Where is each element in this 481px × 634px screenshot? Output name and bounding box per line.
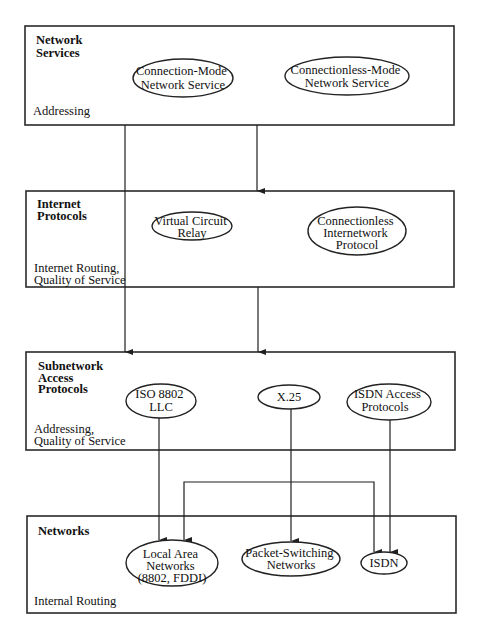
node-isdn: ISDN <box>361 552 407 574</box>
layer-network-services: Network Services Addressing Connection-M… <box>33 33 409 118</box>
protocol-layer-diagram: Network Services Addressing Connection-M… <box>0 0 481 634</box>
node-iso-8802-llc: ISO 8802 LLC <box>126 384 196 418</box>
layer-title: Networks <box>38 524 90 538</box>
node-connectionless-mode-network-service: Connectionless-Mode Network Service <box>285 57 409 95</box>
layer-note: Addressing <box>33 104 91 118</box>
layer-networks: Networks Internal Routing Local Area Net… <box>34 524 407 608</box>
node-packet-switching-networks: Packet-Switching Networks <box>242 542 340 576</box>
svg-text:Connectionless-Mode Ne: Connectionless-Mode Network Service <box>291 63 404 90</box>
connector-isdn-lan-bracket <box>184 482 374 552</box>
node-connectionless-internetwork-protocol: Connectionless Internetwork Protocol <box>308 207 406 255</box>
svg-text:Connection-Mode Networ: Connection-Mode Network Service <box>136 64 230 92</box>
layer-internet-protocols: Internet Protocols Internet Routing, Qua… <box>34 197 406 287</box>
node-isdn-access-protocols: ISDN Access Protocols <box>347 384 431 420</box>
node-x25: X.25 <box>258 385 320 409</box>
layer-title: Internet Protocols <box>37 197 87 223</box>
layer-note: Internet Routing, Quality of Service <box>34 261 126 287</box>
node-virtual-circuit-relay: Virtual Circuit Relay <box>152 212 232 240</box>
layer-title: Subnetwork Access Protocols <box>38 359 106 396</box>
node-local-area-networks: Local Area Networks (8802, FDDI) <box>126 540 218 586</box>
layer-subnetwork-access-protocols: Subnetwork Access Protocols Addressing, … <box>34 359 431 448</box>
layer-title: Network Services <box>36 33 86 60</box>
layer-note: Addressing, Quality of Service <box>34 422 126 448</box>
svg-text:Local Area Networks: Local Area Networks (8802, FDDI) <box>138 547 207 585</box>
svg-text:X.25: X.25 <box>277 390 302 404</box>
layer-note: Internal Routing <box>34 594 117 608</box>
svg-text:ISDN: ISDN <box>369 556 398 570</box>
node-connection-mode-network-service: Connection-Mode Network Service <box>133 59 233 97</box>
